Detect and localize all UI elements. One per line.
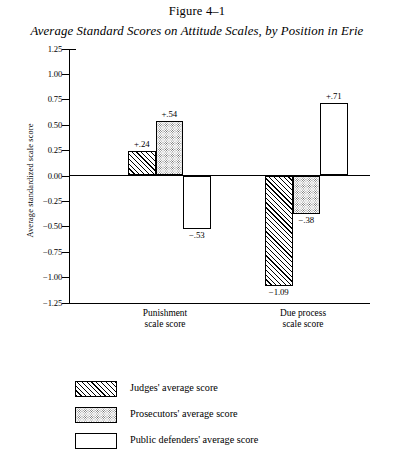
legend-swatch-white — [75, 433, 117, 449]
category-label-line2: scale score — [105, 319, 225, 330]
legend-label-public-defenders: Public defenders' average score — [130, 434, 258, 445]
category-label-due-process: Due process scale score — [243, 308, 363, 331]
y-tick-label: 1.25 — [16, 44, 62, 54]
category-label-line1: Punishment — [105, 308, 225, 319]
bar-value-label: +.54 — [156, 109, 184, 119]
legend-label-judges: Judges' average score — [130, 382, 218, 393]
bar-public-defenders-due-process — [320, 103, 348, 175]
bar-prosecutors-due-process — [293, 176, 321, 215]
category-label-punishment: Punishment scale score — [105, 308, 225, 331]
y-axis-line — [69, 49, 70, 304]
y-tick-label: 1.00 — [16, 69, 62, 79]
legend-swatch-hatch — [75, 381, 117, 397]
plot-area: Average standardized scale score 1.251.0… — [0, 0, 394, 330]
legend-label-prosecutors: Prosecutors' average score — [130, 408, 238, 419]
bar-judges-punishment — [128, 151, 156, 175]
bar-value-label: −.38 — [293, 215, 321, 225]
legend-swatch-dots — [75, 407, 117, 423]
y-tick-label: −0.25 — [16, 196, 62, 206]
y-tick-label: 0.75 — [16, 94, 62, 104]
bar-value-label: +.24 — [128, 139, 156, 149]
figure-root: Figure 4–1 Average Standard Scores on At… — [0, 0, 394, 453]
category-label-line1: Due process — [243, 308, 363, 319]
bar-value-label: −1.09 — [265, 287, 293, 297]
x-axis-bottom-line — [69, 303, 370, 304]
y-axis-top-cap — [69, 49, 76, 50]
bar-judges-due-process — [265, 176, 293, 287]
y-tick-label: −1.00 — [16, 272, 62, 282]
y-tick-label: 0.25 — [16, 145, 62, 155]
bar-value-label: +.71 — [320, 91, 348, 101]
bar-public-defenders-punishment — [183, 176, 211, 230]
bar-prosecutors-punishment — [156, 121, 184, 176]
y-tick-label: −0.50 — [16, 221, 62, 231]
y-tick-label: 0.50 — [16, 120, 62, 130]
y-tick-label: 0.00 — [16, 171, 62, 181]
y-axis-title: Average standardized scale score — [26, 91, 35, 271]
bar-value-label: −.53 — [183, 230, 211, 240]
y-tick-label: −0.75 — [16, 247, 62, 257]
y-tick-label: −1.25 — [16, 298, 62, 308]
category-label-line2: scale score — [243, 319, 363, 330]
